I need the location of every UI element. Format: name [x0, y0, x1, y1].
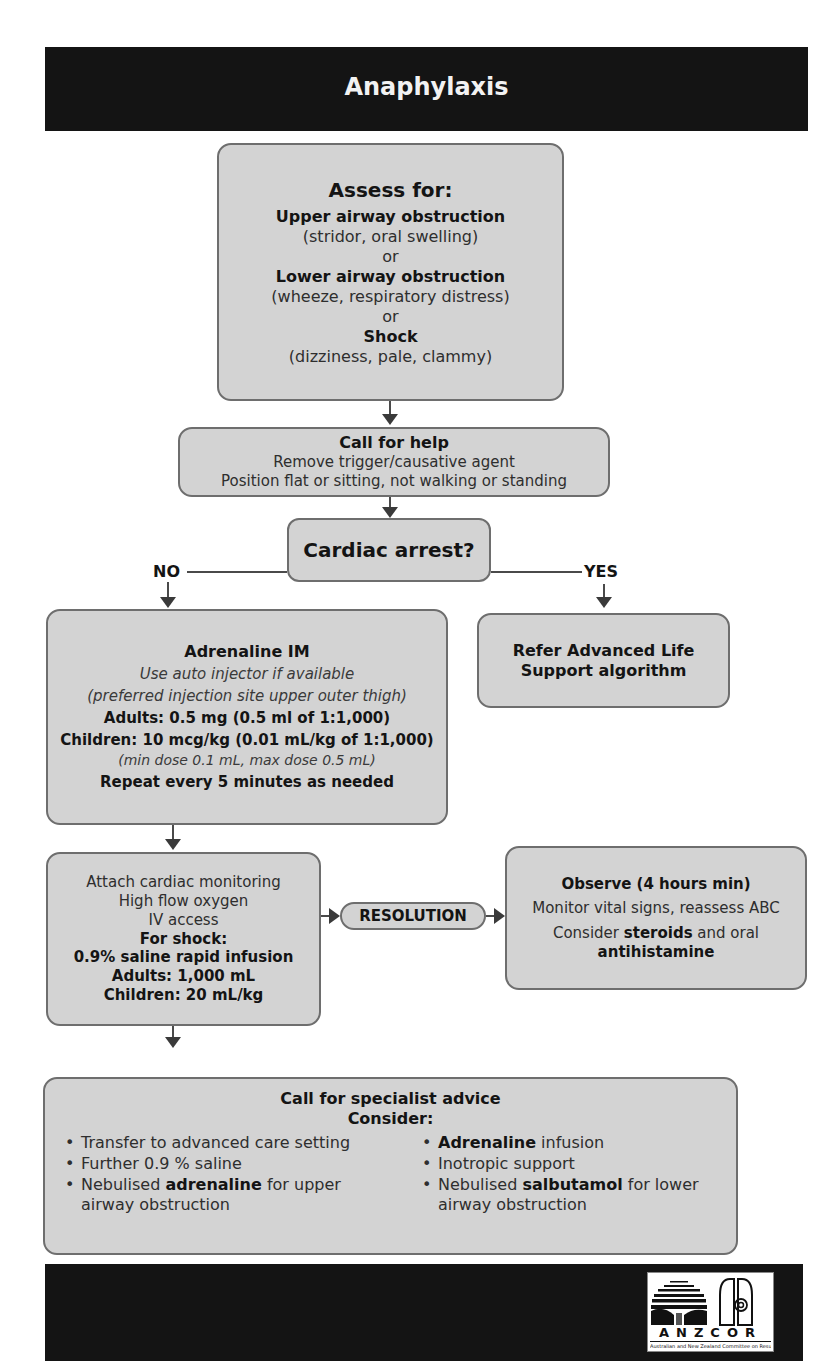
specialist-subtitle: Consider:: [45, 1109, 736, 1129]
als-line-1: Refer Advanced Life: [479, 641, 728, 661]
shock-line-3: Children: 20 mL/kg: [48, 986, 319, 1005]
connector-line: [187, 571, 287, 573]
monitoring-line-3: IV access: [48, 911, 319, 930]
anzcor-logo: ANZCOR Australian and New Zealand Commit…: [647, 1272, 774, 1352]
observe-box: Observe (4 hours min) Monitor vital sign…: [505, 846, 807, 990]
arrow-down-icon: [165, 1037, 181, 1048]
assess-lower-airway-detail: (wheeze, respiratory distress): [219, 287, 562, 307]
monitoring-line-1: Attach cardiac monitoring: [48, 873, 319, 892]
observe-consider-line: Consider steroids and oral: [507, 924, 805, 943]
specialist-left-list: Transfer to advanced care setting Furthe…: [63, 1133, 400, 1216]
and-oral-text: and oral: [693, 924, 759, 942]
list-item: Inotropic support: [420, 1154, 720, 1174]
assess-upper-airway-detail: (stridor, oral swelling): [219, 227, 562, 247]
list-item: Transfer to advanced care setting: [63, 1133, 400, 1153]
als-line-2: Support algorithm: [479, 661, 728, 681]
call-for-help-box: Call for help Remove trigger/causative a…: [178, 427, 610, 497]
arrow-down-icon: [382, 414, 398, 425]
steroids-text: steroids: [624, 924, 693, 942]
adrenaline-repeat: Repeat every 5 minutes as needed: [48, 773, 446, 792]
no-label: NO: [153, 562, 180, 581]
monitoring-line-2: High flow oxygen: [48, 892, 319, 911]
arrow-right-icon: [329, 908, 340, 924]
arrow-down-icon: [596, 597, 612, 608]
call-help-line-2: Position flat or sitting, not walking or…: [180, 472, 608, 491]
resolution-label: RESOLUTION: [342, 907, 484, 926]
assess-lower-airway: Lower airway obstruction: [219, 267, 562, 287]
arrow-down-icon: [160, 597, 176, 608]
anzcor-emblem-icon: [648, 1275, 773, 1327]
list-item: Further 0.9 % saline: [63, 1154, 400, 1174]
call-help-title: Call for help: [180, 433, 608, 453]
adrenaline-dose-range: (min dose 0.1 mL, max dose 0.5 mL): [48, 752, 446, 770]
decision-question: Cardiac arrest?: [289, 538, 489, 563]
shock-line-1: 0.9% saline rapid infusion: [48, 948, 319, 967]
page-title: Anaphylaxis: [45, 73, 808, 101]
assess-or-1: or: [219, 247, 562, 267]
assess-upper-airway: Upper airway obstruction: [219, 207, 562, 227]
logo-name: ANZCOR: [648, 1325, 773, 1340]
adrenaline-note-1: Use auto injector if available: [48, 665, 446, 684]
connector-line: [491, 571, 582, 573]
list-item: Nebulised salbutamol for lower airway ob…: [420, 1175, 728, 1215]
shock-title: For shock:: [48, 930, 319, 949]
cardiac-arrest-decision: Cardiac arrest?: [287, 518, 491, 582]
adrenaline-adult-dose: Adults: 0.5 mg (0.5 ml of 1:1,000): [48, 709, 446, 728]
specialist-right-list: Adrenaline infusion Inotropic support Ne…: [420, 1133, 720, 1216]
assess-shock-detail: (dizziness, pale, clammy): [219, 347, 562, 367]
arrow-down-icon: [165, 839, 181, 850]
yes-label: YES: [584, 562, 618, 581]
assess-box: Assess for: Upper airway obstruction (st…: [217, 143, 564, 401]
logo-subtitle: Australian and New Zealand Committee on …: [650, 1341, 771, 1349]
connector-line: [603, 584, 605, 598]
specialist-advice-box: Call for specialist advice Consider: Tra…: [43, 1077, 738, 1255]
adrenaline-child-dose: Children: 10 mcg/kg (0.01 mL/kg of 1:1,0…: [48, 731, 446, 750]
connector-line: [167, 582, 169, 598]
adrenaline-note-2: (preferred injection site upper outer th…: [48, 687, 446, 706]
assess-title: Assess for:: [219, 178, 562, 203]
arrow-down-icon: [382, 507, 398, 518]
consider-text: Consider: [553, 924, 624, 942]
arrow-right-icon: [494, 908, 505, 924]
adrenaline-title: Adrenaline IM: [48, 642, 446, 662]
specialist-columns: Transfer to advanced care setting Furthe…: [45, 1133, 736, 1216]
adrenaline-im-box: Adrenaline IM Use auto injector if avail…: [46, 609, 448, 825]
call-help-line-1: Remove trigger/causative agent: [180, 453, 608, 472]
list-item: Adrenaline infusion: [420, 1133, 720, 1153]
resolution-pill: RESOLUTION: [340, 902, 486, 930]
observe-title: Observe (4 hours min): [507, 875, 805, 894]
antihistamine-text: antihistamine: [507, 943, 805, 962]
assess-shock: Shock: [219, 327, 562, 347]
monitoring-box: Attach cardiac monitoring High flow oxyg…: [46, 852, 321, 1026]
title-banner: Anaphylaxis: [45, 47, 808, 131]
observe-line-1: Monitor vital signs, reassess ABC: [507, 899, 805, 918]
assess-or-2: or: [219, 307, 562, 327]
advanced-life-support-box: Refer Advanced Life Support algorithm: [477, 613, 730, 708]
shock-line-2: Adults: 1,000 mL: [48, 967, 319, 986]
list-item: Nebulised adrenaline for upper airway ob…: [63, 1175, 341, 1215]
specialist-title: Call for specialist advice: [45, 1089, 736, 1109]
